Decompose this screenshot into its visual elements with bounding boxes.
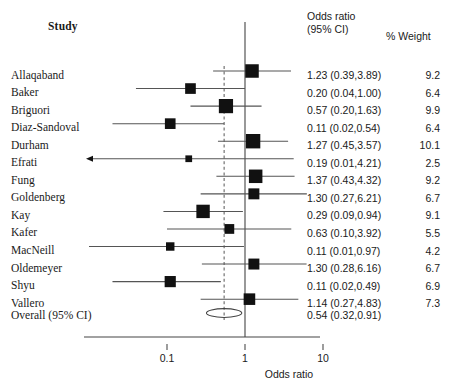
study-label: Kay	[11, 210, 30, 222]
odds-ratio-value: 1.14 (0.27,4.83)	[307, 298, 381, 309]
forest-plot-graphic	[0, 0, 456, 390]
summary-effect-ellipse	[206, 309, 241, 318]
odds-ratio-value: 1.23 (0.39,3.89)	[307, 70, 381, 81]
effect-size-marker	[219, 99, 233, 113]
column-header-confidence-interval: (95% CI)	[307, 23, 348, 35]
odds-ratio-value: 0.11 (0.02,0.54)	[307, 123, 380, 134]
x-axis-tick-label: 10	[317, 353, 329, 364]
effect-size-marker	[224, 224, 234, 234]
study-label: Durham	[11, 140, 49, 152]
study-label: Shyu	[11, 280, 35, 292]
odds-ratio-value: 0.11 (0.02,0.49)	[307, 281, 380, 292]
study-label: Efrati	[11, 157, 37, 169]
effect-size-marker	[165, 276, 176, 287]
axis-title-odds-ratio: Odds ratio	[265, 368, 313, 380]
odds-ratio-value: 0.29 (0.09,0.94)	[307, 210, 381, 221]
study-label: Oldemeyer	[11, 263, 62, 275]
study-weight-value: 7.3	[406, 298, 440, 309]
odds-ratio-value: 0.63 (0.10,3.92)	[307, 228, 381, 239]
study-label: Baker	[11, 87, 38, 99]
study-weight-value: 6.9	[406, 281, 440, 292]
effect-size-marker	[248, 188, 259, 199]
study-label: Diaz-Sandoval	[11, 122, 79, 134]
odds-ratio-value: 0.11 (0.01,0.97)	[307, 246, 380, 257]
odds-ratio-value: 0.19 (0.01,4.21)	[307, 158, 381, 169]
odds-ratio-value: 0.57 (0.20,1.63)	[307, 105, 381, 116]
study-weight-value: 9.1	[406, 210, 440, 221]
study-weight-value: 6.7	[406, 263, 440, 274]
study-label: MacNeill	[11, 245, 54, 257]
odds-ratio-value: 1.30 (0.28,6.16)	[307, 263, 381, 274]
study-label: Vallero	[11, 298, 44, 310]
study-weight-value: 2.5	[406, 158, 440, 169]
odds-ratio-value: 1.30 (0.27,6.21)	[307, 193, 381, 204]
overall-label: Overall (95% CI)	[11, 310, 91, 322]
study-weight-value: 5.5	[406, 228, 440, 239]
study-weight-value: 6.4	[406, 123, 440, 134]
column-header-weight: % Weight	[386, 30, 431, 42]
overall-odds-ratio-value: 0.54 (0.32,0.91)	[307, 310, 381, 321]
effect-size-marker	[245, 64, 258, 77]
study-label: Allaqaband	[11, 70, 64, 82]
study-weight-value: 9.2	[406, 70, 440, 81]
study-weight-value: 6.4	[406, 88, 440, 99]
study-label: Briguori	[11, 105, 50, 117]
effect-size-marker	[248, 259, 259, 270]
study-weight-value: 9.9	[406, 105, 440, 116]
x-axis-tick-label: 1	[242, 353, 248, 364]
x-axis-tick-label: 0.1	[160, 353, 175, 364]
effect-size-marker	[196, 205, 209, 218]
effect-size-marker	[166, 242, 174, 250]
effect-size-marker	[185, 155, 192, 162]
odds-ratio-value: 1.27 (0.45,3.57)	[307, 140, 381, 151]
effect-size-marker	[185, 83, 196, 94]
effect-size-marker	[249, 170, 262, 183]
study-label: Kafer	[11, 227, 37, 239]
forest-plot: Study Odds ratio (95% CI) % Weight Allaq…	[0, 0, 456, 390]
odds-ratio-value: 1.37 (0.43,4.32)	[307, 175, 381, 186]
odds-ratio-value: 0.20 (0.04,1.00)	[307, 88, 381, 99]
study-label: Goldenberg	[11, 192, 65, 204]
ci-clipped-arrow	[86, 156, 93, 162]
effect-size-marker	[246, 134, 260, 148]
column-header-study: Study	[48, 20, 78, 32]
column-header-odds-ratio: Odds ratio	[307, 10, 355, 22]
study-weight-value: 9.2	[406, 175, 440, 186]
effect-size-marker	[165, 118, 176, 129]
study-label: Fung	[11, 175, 35, 187]
study-weight-value: 10.1	[406, 140, 440, 151]
study-weight-value: 6.7	[406, 193, 440, 204]
study-weight-value: 4.2	[406, 246, 440, 257]
effect-size-marker	[244, 293, 256, 305]
